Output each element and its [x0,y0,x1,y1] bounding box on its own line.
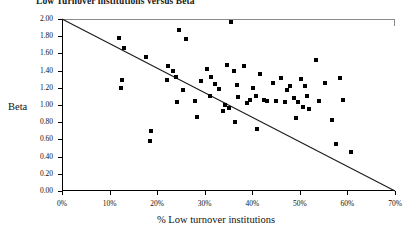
y-tick: 1.80 [58,36,62,37]
scatter-point [338,76,342,80]
plot-frame-right-cap [394,19,395,26]
scatter-point [307,107,311,111]
scatter-point [334,142,338,146]
scatter-point [165,78,169,82]
scatter-point [171,69,175,73]
scatter-point [122,46,126,50]
scatter-point [225,63,229,67]
y-tick-label: 2.00 [40,15,53,23]
y-tick-label: 1.40 [40,67,53,75]
y-axis-title: Beta [8,101,27,112]
scatter-point [235,83,239,87]
x-tick-label: 50% [293,200,307,208]
x-tick-label: 70% [388,200,402,208]
scatter-point [232,69,236,73]
x-tick-label: 0% [57,200,67,208]
scatter-point [301,105,305,109]
scatter-point [229,20,233,24]
scatter-point [317,99,321,103]
x-tick: 10% [110,191,111,195]
scatter-point [341,98,345,102]
scatter-point [205,67,209,71]
y-tick-label: 0.00 [40,187,53,195]
scatter-point [305,94,309,98]
scatter-point [274,99,278,103]
y-tick: 1.20 [58,88,62,89]
scatter-point [349,150,353,154]
scatter-point [117,36,121,40]
scatter-point [177,28,181,32]
scatter-point [294,116,298,120]
scatter-point [285,88,289,92]
y-tick-label: 0.20 [40,170,53,178]
y-tick-label: 0.60 [40,136,53,144]
scatter-point [166,64,170,68]
x-tick: 60% [347,191,348,195]
x-tick: 40% [252,191,253,195]
x-tick: 0% [62,191,63,195]
y-tick-label: 1.80 [40,32,53,40]
y-tick: 1.60 [58,53,62,54]
scatter-point [144,55,148,59]
scatter-point [299,77,303,81]
scatter-point [175,100,179,104]
scatter-point [149,129,153,133]
scatter-point [148,139,152,143]
scatter-point [265,99,269,103]
x-axis-title: % Low turnover institutions [0,214,420,225]
scatter-point [199,79,203,83]
y-tick-label: 1.60 [40,50,53,58]
scatter-point [258,72,262,76]
y-tick-label: 1.00 [40,101,53,109]
scatter-point [254,94,258,98]
x-tick-label: 10% [103,200,117,208]
scatter-point [181,88,185,92]
scatter-point [184,37,188,41]
chart-figure: Low Turnover institutions versus Beta Be… [0,0,420,240]
x-tick-label: 60% [341,200,355,208]
scatter-point [323,81,327,85]
scatter-point [233,120,237,124]
scatter-point [209,75,213,79]
x-tick: 70% [395,191,396,195]
x-axis-title-text: % Low turnover institutions [157,214,275,225]
x-tick-label: 20% [150,200,164,208]
scatter-point [303,84,307,88]
scatter-point [283,100,287,104]
scatter-point [221,109,225,113]
scatter-point [245,101,249,105]
y-tick-label: 0.40 [40,153,53,161]
x-tick: 50% [300,191,301,195]
scatter-point [251,86,255,90]
chart-title: Low Turnover institutions versus Beta [36,0,195,6]
y-tick: 0.80 [58,122,62,123]
scatter-point [279,76,283,80]
scatter-point [217,87,221,91]
y-tick: 0.40 [58,157,62,158]
y-tick: 2.00 [58,19,62,20]
x-tick-label: 30% [198,200,212,208]
x-tick: 20% [157,191,158,195]
y-tick: 0.20 [58,174,62,175]
scatter-point [296,100,300,104]
y-tick: 0.60 [58,139,62,140]
scatter-point [120,78,124,82]
scatter-point [255,127,259,131]
scatter-point [174,75,178,79]
scatter-point [208,94,212,98]
plot-area: 0.000.200.400.600.801.001.201.401.601.80… [62,19,395,191]
scatter-point [314,58,318,62]
scatter-point [242,64,246,68]
scatter-point [193,99,197,103]
scatter-point [330,118,334,122]
y-tick-label: 0.80 [40,118,53,126]
scatter-point [195,115,199,119]
y-tick: 1.00 [58,105,62,106]
scatter-point [271,81,275,85]
scatter-point [227,106,231,110]
x-tick-label: 40% [245,200,259,208]
scatter-point [119,86,123,90]
x-tick: 30% [205,191,206,195]
scatter-point [236,95,240,99]
y-tick: 1.40 [58,71,62,72]
